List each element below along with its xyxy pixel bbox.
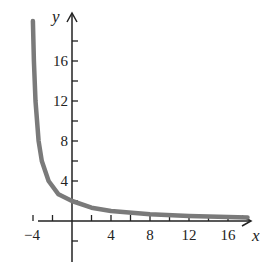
x-axis-label: x xyxy=(251,226,260,245)
y-tick-label: 4 xyxy=(61,173,69,189)
chart-canvas: −4 4 8 12 16 4 8 12 16 x y xyxy=(0,0,265,275)
x-tick-label: 12 xyxy=(182,227,197,243)
x-tick-label: 4 xyxy=(107,227,115,243)
y-tick-label: 16 xyxy=(53,53,69,69)
y-tick-label: 8 xyxy=(61,133,69,149)
x-tick-label: 8 xyxy=(146,227,154,243)
x-tick-label: −4 xyxy=(24,227,40,243)
x-tick-label: 16 xyxy=(221,227,237,243)
y-ticks xyxy=(72,41,78,241)
y-tick-label: 12 xyxy=(53,93,68,109)
y-axis-label: y xyxy=(50,7,60,26)
